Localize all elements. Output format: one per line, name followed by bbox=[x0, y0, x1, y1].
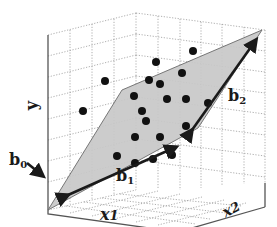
data-point bbox=[130, 92, 138, 100]
data-point bbox=[152, 58, 160, 66]
b2-label: b2 bbox=[228, 86, 246, 106]
regression-plane-diagram bbox=[0, 0, 277, 227]
data-point bbox=[182, 95, 190, 103]
data-point bbox=[79, 107, 87, 115]
data-point bbox=[142, 117, 150, 125]
data-point bbox=[178, 69, 186, 77]
b1-subscript: 1 bbox=[127, 175, 134, 186]
y-axis-label: y bbox=[22, 101, 41, 110]
data-point bbox=[131, 133, 139, 141]
data-point bbox=[156, 133, 164, 141]
x1-axis-label: x1 bbox=[100, 205, 119, 224]
b2-text: b bbox=[228, 86, 239, 105]
regression-plane bbox=[48, 30, 262, 210]
b0-text: b bbox=[9, 150, 20, 169]
b0-label: b0 bbox=[9, 150, 27, 170]
x1-subscript: 1 bbox=[110, 208, 119, 223]
floor-grid bbox=[48, 190, 246, 225]
b0-subscript: 0 bbox=[20, 159, 27, 170]
data-point bbox=[189, 47, 197, 55]
data-point bbox=[156, 80, 164, 88]
data-point bbox=[101, 77, 109, 85]
b1-label: b1 bbox=[116, 166, 134, 186]
data-point bbox=[163, 95, 171, 103]
data-point bbox=[138, 107, 146, 115]
b0-arrow bbox=[27, 163, 43, 176]
data-point bbox=[182, 122, 190, 130]
data-point bbox=[168, 151, 176, 159]
y-axis-text: y bbox=[22, 101, 41, 110]
data-point bbox=[113, 152, 121, 160]
x1-text: x bbox=[100, 205, 110, 224]
b1-text: b bbox=[116, 166, 127, 185]
data-point bbox=[145, 76, 153, 84]
b2-subscript: 2 bbox=[239, 95, 246, 106]
